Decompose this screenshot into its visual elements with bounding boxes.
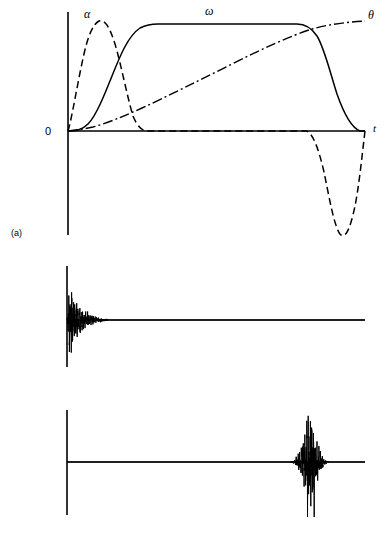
motion-profile-figure: α ω θ 0 t (a) 0 t (b) 0 t (c): [0, 0, 391, 544]
vibration-burst-start-waveform: [67, 292, 365, 352]
panel-a-plot: [0, 0, 391, 255]
omega-curve-label: ω: [205, 5, 213, 17]
omega-curve: [68, 24, 365, 131]
panel-a-caption: (a): [11, 229, 22, 238]
panel-b-plot: [0, 255, 391, 395]
panel-a-axes: [68, 12, 365, 235]
panel-b-axes: [67, 266, 365, 367]
panel-c-plot: [0, 395, 391, 544]
alpha-curve-label: α: [84, 8, 90, 20]
vibration-burst-end-waveform: [67, 416, 365, 517]
panel-a-t-axis-label: t: [373, 123, 376, 134]
alpha-curve: [68, 21, 365, 236]
theta-curve-label: θ: [368, 9, 374, 21]
panel-b-vibration-start: 0 t (b): [0, 255, 391, 395]
panel-c-vibration-end: 0 t (c): [0, 395, 391, 544]
panel-a-zero-label: 0: [45, 126, 51, 137]
panel-a-motion-profiles: α ω θ 0 t (a): [0, 0, 391, 255]
